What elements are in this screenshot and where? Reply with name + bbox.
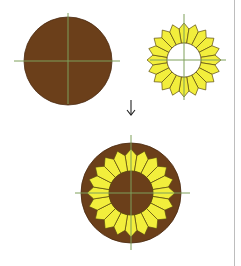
down-arrow-icon: [127, 100, 135, 115]
diagram-canvas: [0, 0, 241, 266]
composite: [75, 135, 190, 250]
yellow-ring: [147, 14, 226, 100]
vertical-divider: [234, 0, 235, 266]
brown-disc: [14, 13, 120, 105]
